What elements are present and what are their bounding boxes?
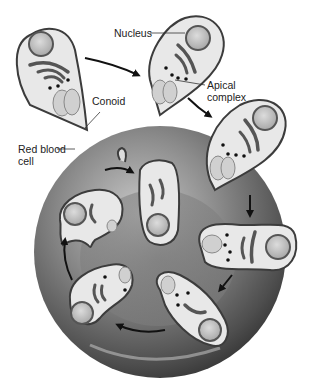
label-apical-complex: Apical complex bbox=[207, 79, 246, 103]
label-conoid: Conoid bbox=[92, 95, 125, 107]
parasite-free bbox=[17, 29, 87, 130]
parasite-entering bbox=[199, 224, 296, 270]
arrow-1 bbox=[85, 58, 138, 75]
label-red-blood-cell: Red blood cell bbox=[18, 143, 66, 167]
diagram-canvas bbox=[0, 0, 310, 384]
label-nucleus: Nucleus bbox=[114, 27, 152, 39]
